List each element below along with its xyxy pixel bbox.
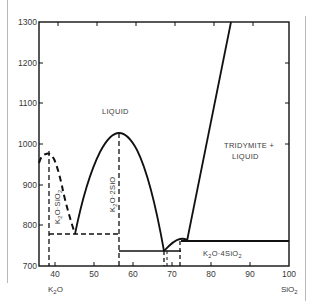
x-tick-100: 100: [282, 269, 296, 279]
x-axis-label-sio2: SiO2: [281, 285, 298, 295]
region-label-liquid: LIQUID: [102, 107, 129, 116]
x-tick-90: 90: [245, 269, 255, 279]
y-tick-800: 800: [23, 220, 37, 230]
y-tick-700: 700: [23, 261, 37, 271]
compound-label-k2o-4sio2: K2O·4SiO2: [203, 249, 242, 259]
region-label-tridymite: TRIDYMITE +: [224, 141, 274, 150]
y-tick-1100: 1100: [19, 98, 38, 108]
x-tick-70: 70: [167, 269, 177, 279]
compound-label-k2o-2sio2: K2O·2SiO: [108, 177, 118, 212]
y-tick-1200: 1200: [18, 58, 37, 68]
liquidus-tridymite: [187, 22, 231, 241]
x-tick-60: 60: [128, 269, 138, 279]
x-tick-80: 80: [206, 269, 216, 279]
x-tick-50: 50: [89, 269, 99, 279]
region-label-tridymite-liquid: LIQUID: [232, 152, 259, 161]
compound-label-k2o-sio2: K2O·SiO2: [53, 190, 63, 224]
y-tick-1000: 1000: [18, 139, 37, 149]
phase-diagram: 1300 1200 1100 1000 900 800 700 40 50 60…: [0, 0, 311, 306]
y-tick-900: 900: [23, 180, 37, 190]
x-axis-label-k2o: K2O: [48, 285, 63, 295]
y-tick-1300: 1300: [18, 17, 37, 27]
x-tick-40: 40: [50, 269, 60, 279]
